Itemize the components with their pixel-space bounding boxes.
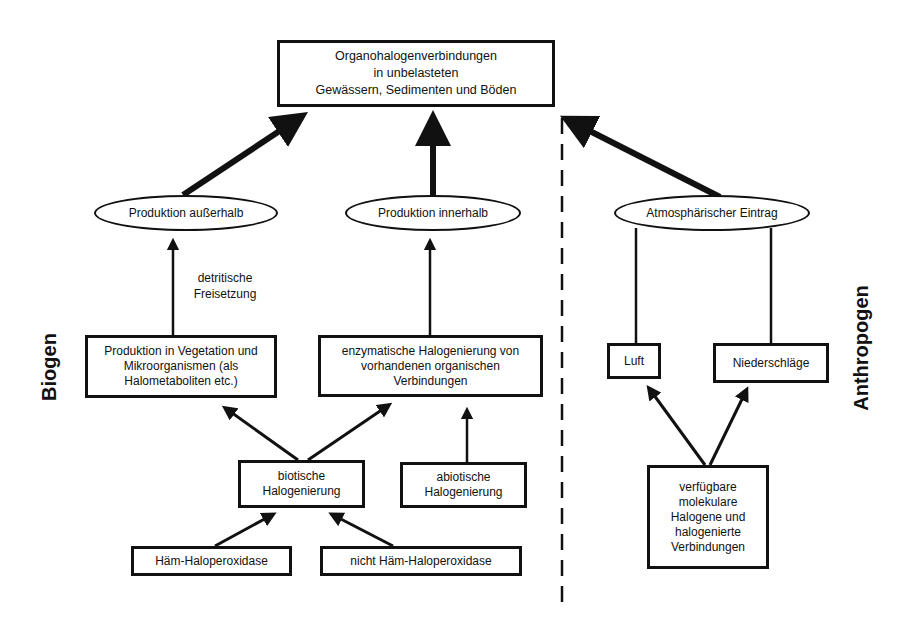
- node-production-outside: Produktion außerhalb: [94, 195, 278, 231]
- node-heme-haloperoxidase: Häm-Haloperoxidase: [131, 546, 292, 576]
- arrow-available-to-precipitation: [710, 393, 745, 465]
- arrow-biotic-to-vegetation: [228, 410, 298, 460]
- side-label-anthropogenic: Anthropogen: [850, 283, 874, 413]
- node-air: Luft: [607, 343, 661, 379]
- node-atmospheric-input-label: Atmosphärischer Eintrag: [646, 206, 777, 220]
- node-vegetation-production: Produktion in Vegetation und Mikroorgani…: [85, 335, 277, 398]
- node-available-halogens: verfügbare molekulare Halogene und halog…: [647, 465, 769, 569]
- node-nonheme-haloperoxidase: nicht Häm-Haloperoxidase: [320, 546, 522, 576]
- diagram-canvas: Organohalogenverbindungen in unbelastete…: [0, 0, 901, 628]
- node-enzymatic-halogenation: enzymatische Halogenierung von vorhanden…: [318, 335, 543, 397]
- node-precipitation: Niederschläge: [713, 343, 829, 383]
- node-production-outside-label: Produktion außerhalb: [129, 206, 244, 220]
- node-production-inside: Produktion innerhalb: [345, 195, 521, 231]
- node-biotic-halogenation: biotische Halogenierung: [238, 460, 365, 508]
- arrow-outside-to-top: [183, 122, 293, 195]
- arrow-heme-to-biotic: [215, 516, 270, 546]
- edge-label-detrital-release: detritische Freisetzung: [180, 270, 270, 302]
- arrow-biotic-to-enzymatic: [308, 407, 386, 460]
- arrow-atmospheric-to-top: [576, 124, 720, 197]
- node-organohalogen-compounds: Organohalogenverbindungen in unbelastete…: [277, 40, 555, 107]
- side-label-biogenic: Biogen: [38, 327, 62, 407]
- arrow-nonheme-to-biotic: [335, 516, 393, 546]
- node-production-inside-label: Produktion innerhalb: [378, 206, 488, 220]
- node-atmospheric-input: Atmosphärischer Eintrag: [614, 195, 810, 231]
- node-abiotic-halogenation: abiotische Halogenierung: [400, 462, 527, 508]
- arrow-available-to-air: [651, 391, 705, 465]
